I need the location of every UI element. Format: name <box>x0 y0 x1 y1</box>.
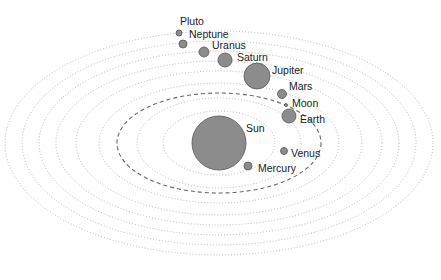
body-mars: Mars <box>278 80 313 99</box>
body-venus: Venus <box>281 147 321 159</box>
jupiter-label: Jupiter <box>272 64 304 76</box>
mercury-label: Mercury <box>258 162 297 174</box>
pluto-circle <box>176 30 182 36</box>
pluto-label: Pluto <box>180 15 204 27</box>
neptune-label: Neptune <box>189 28 229 40</box>
saturn-label: Saturn <box>237 51 268 63</box>
body-moon: Moon <box>285 97 319 109</box>
mars-label: Mars <box>289 80 312 92</box>
mars-circle <box>278 90 287 99</box>
neptune-circle <box>179 40 187 48</box>
moon-circle <box>285 104 288 107</box>
uranus-circle <box>199 47 209 57</box>
jupiter-circle <box>244 63 270 89</box>
mercury-circle <box>244 162 252 170</box>
body-sun: Sun <box>192 116 265 170</box>
uranus-label: Uranus <box>212 39 246 51</box>
saturn-circle <box>218 53 232 67</box>
body-mercury: Mercury <box>244 162 297 174</box>
body-earth: Earth <box>282 109 325 125</box>
sun-label: Sun <box>246 122 265 134</box>
solar-system-diagram: SunMercuryVenusEarthMoonMarsJupiterSatur… <box>0 0 441 280</box>
venus-circle <box>281 148 288 155</box>
earth-circle <box>282 109 296 123</box>
sun-circle <box>192 116 246 170</box>
moon-label: Moon <box>292 97 318 109</box>
venus-label: Venus <box>291 147 320 159</box>
earth-label: Earth <box>300 113 325 125</box>
